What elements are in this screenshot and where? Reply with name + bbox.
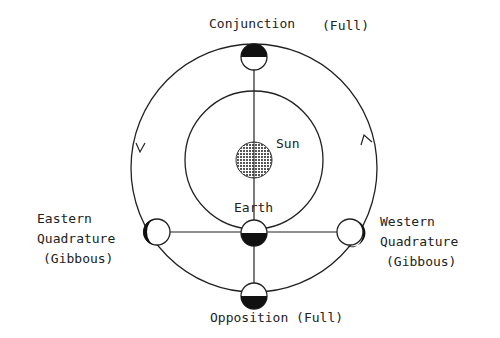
sun-label: Sun [276,136,299,152]
conjunction-label: Conjunction [209,16,295,32]
earth-icon [241,220,267,246]
opposition-moon-icon [241,283,267,309]
earth-label: Earth [234,200,273,216]
eastern-label-2: Quadrature [37,231,115,247]
eastern-quadrature-icon [143,219,170,245]
arrow-right-icon [361,135,372,145]
eastern-label-1: Eastern [37,211,92,227]
opposition-label: Opposition (Full) [210,310,343,326]
orbit-diagram [0,0,500,338]
western-quadrature-icon [337,219,365,247]
conjunction-phase-label: (Full) [322,18,369,34]
arrow-left-icon [136,143,145,152]
conjunction-moon-icon [241,44,267,70]
eastern-label-3: (Gibbous) [43,251,113,267]
western-label-1: Western [380,214,435,230]
western-label-3: (Gibbous) [386,254,456,270]
western-label-2: Quadrature [380,234,458,250]
